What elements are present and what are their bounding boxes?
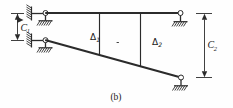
hatch-ground-upper-left	[37, 21, 51, 25]
hatch-lower-left	[27, 32, 32, 47]
label-c2-subscript: 2	[214, 45, 218, 52]
c2-arrow-down-head	[202, 71, 207, 77]
hatch-ground-lower-left	[37, 48, 51, 52]
support-upper-left	[27, 5, 53, 25]
support-lower-left	[27, 32, 53, 52]
label-delta1-subscript: 1	[96, 36, 100, 43]
figure-container: C 1	[0, 0, 233, 108]
figure-caption: (b)	[110, 92, 121, 103]
support-lower-right	[173, 75, 188, 90]
dimension-c2: C 2	[196, 14, 218, 78]
c1-arrow-down-head	[15, 34, 20, 40]
c2-arrow-up-head	[202, 14, 207, 20]
pin-node-lower-right	[179, 75, 184, 80]
hatch-ground-upper-right	[172, 22, 186, 26]
hatch-upper-left	[27, 5, 32, 20]
label-delta2-subscript: 2	[158, 41, 162, 48]
hatch-ground-lower-right	[173, 86, 187, 90]
c1-arrow-up-head	[15, 14, 20, 20]
pin-node-upper-right	[178, 11, 183, 16]
structural-diagram: C 1	[0, 0, 233, 108]
